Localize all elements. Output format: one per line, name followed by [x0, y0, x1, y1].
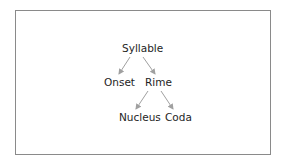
arrow-rime-coda — [161, 91, 173, 109]
arrow-syllable-onset — [119, 57, 130, 74]
arrow-rime-nucleus — [136, 91, 148, 109]
node-syllable: Syllable — [122, 42, 163, 54]
node-nucleus: Nucleus — [119, 111, 161, 123]
node-rime: Rime — [145, 76, 172, 88]
edges-layer — [0, 0, 285, 166]
arrow-syllable-rime — [143, 57, 155, 74]
node-onset: Onset — [104, 76, 135, 88]
node-coda: Coda — [165, 111, 192, 123]
